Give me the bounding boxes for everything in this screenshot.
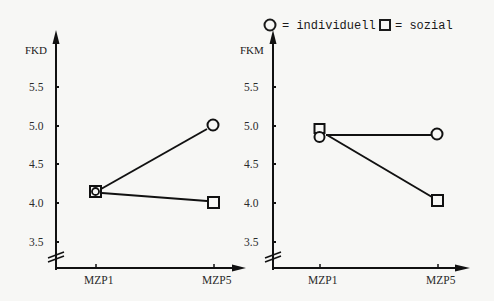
- y-tick-label: 4.0: [29, 197, 44, 209]
- chart-canvas: = individuell = sozial FKD 5.5 5.0 4.5 4…: [0, 0, 494, 301]
- x-tick-label: MZP1: [308, 274, 338, 286]
- y-tick-label: 4.0: [244, 197, 259, 209]
- y-axis-arrow-icon: [270, 30, 277, 44]
- y-tick-label: 3.5: [244, 236, 259, 248]
- y-tick-label: 5.5: [29, 81, 44, 93]
- x-tick-label: MZP1: [84, 274, 114, 286]
- y-tick-label: 5.0: [29, 120, 44, 132]
- data-point-sozial: [432, 195, 443, 206]
- chart-fkm: FKM 5.5 5.0 4.5 4.0 3.5 MZP1 MZP5: [240, 30, 470, 286]
- data-point-sozial: [208, 197, 219, 208]
- data-point-individuell: [432, 129, 443, 140]
- data-point-individuell: [208, 120, 219, 131]
- series-line-sozial: [102, 193, 207, 201]
- y-tick-label: 5.0: [244, 120, 259, 132]
- x-axis-arrow-icon: [232, 265, 246, 272]
- legend-circle-icon: [265, 20, 276, 31]
- y-tick-label: 4.5: [29, 158, 44, 170]
- legend-label-sozial: = sozial: [395, 19, 453, 33]
- x-axis-arrow-icon: [455, 265, 470, 272]
- x-tick-label: MZP5: [202, 274, 232, 286]
- series-line-sozial: [327, 135, 432, 197]
- y-tick-label: 3.5: [29, 236, 44, 248]
- x-tick-label: MZP5: [426, 274, 456, 286]
- data-point-individuell: [315, 132, 325, 142]
- legend-square-icon: [380, 20, 390, 30]
- legend-label-individuell: = individuell: [282, 19, 376, 33]
- legend: = individuell = sozial: [265, 19, 453, 33]
- y-tick-label: 5.5: [244, 81, 259, 93]
- y-tick-label: 4.5: [244, 158, 259, 170]
- chart-fkd: FKD 5.5 5.0 4.5 4.0 3.5 MZP1 MZP5: [25, 30, 246, 286]
- y-axis-title: FKD: [25, 44, 47, 56]
- series-line-individuell: [101, 129, 207, 189]
- y-axis-arrow-icon: [53, 30, 60, 44]
- y-axis-title: FKM: [240, 44, 264, 56]
